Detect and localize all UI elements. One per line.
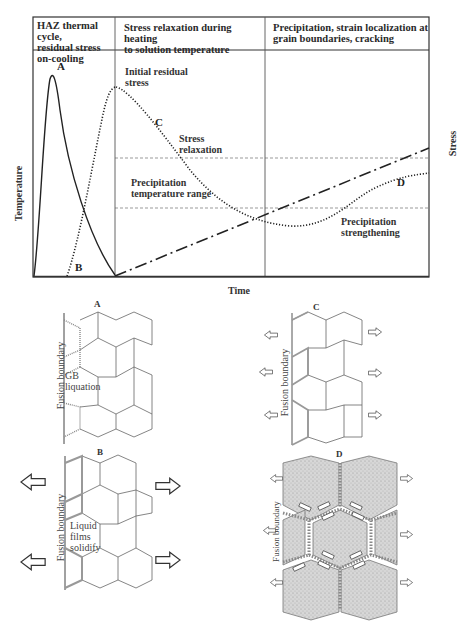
panel-c-arrow-left-3 [264,411,277,419]
label-line: Liquid [70,520,101,531]
panel-b-arrow-left-1 [21,474,45,490]
panel-a-gb-liquation-label: GB liquation [65,370,101,392]
panel-b-liquid-films-label: Liquid films solidify [70,520,101,553]
label-line: GB [65,370,101,381]
panel-d-title: D [336,449,343,459]
panel-c-arrow-right-2 [368,369,381,377]
panel-c-arrow-left-2 [259,368,272,376]
panel-a-fusion-boundary-label: Fusion boundary [55,336,66,416]
panel-c-arrow-right-3 [368,411,381,419]
panel-d-fusion-boundary-label: Fusion boundary [271,492,282,572]
panel-b-title: B [97,447,103,457]
panel-c-stretched-boundaries [292,312,308,445]
panel-a-title: A [94,299,101,309]
panel-d-arrow-right-3 [400,579,412,587]
panel-c-fusion-boundary-label: Fusion boundary [279,343,290,423]
panel-d-arrow-right-1 [400,475,412,483]
panel-b-fusion-boundary-label: Fusion boundary [55,488,66,568]
panel-b-arrow-left-2 [21,554,45,570]
panel-b-arrow-right-2 [156,552,180,568]
panel-d-arrow-left-3 [270,579,282,587]
label-line: liquation [65,381,101,392]
panel-b-arrow-right-1 [156,478,180,494]
panel-c-arrow-right-1 [368,328,381,336]
panel-c-arrow-left-1 [264,331,277,339]
panel-c-title: C [313,302,320,312]
label-line: films [70,531,101,542]
panel-d-arrow-left-1 [270,475,282,483]
panel-d-arrow-right-2 [400,531,412,539]
label-line: solidify [70,542,101,553]
